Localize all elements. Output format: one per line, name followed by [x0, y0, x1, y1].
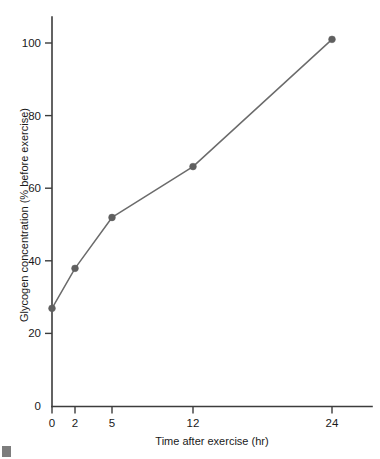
line-chart-svg: 100 80 60 40 20 0 0 2 5 12 24 Glycogen c…: [0, 0, 380, 459]
y-tick-label-100: 100: [22, 37, 41, 49]
x-tick-label-5: 5: [109, 417, 115, 429]
x-tick-label-12: 12: [187, 417, 200, 429]
y-tick-label-20: 20: [28, 327, 41, 339]
x-axis-title: Time after exercise (hr): [155, 435, 268, 447]
data-point-5hr: [109, 214, 116, 221]
chart-figure: 100 80 60 40 20 0 0 2 5 12 24 Glycogen c…: [0, 0, 380, 459]
data-point-12hr: [190, 163, 197, 170]
series-markers-glycogen: [49, 36, 336, 312]
data-series-group: [49, 36, 336, 312]
y-tick-label-0: 0: [35, 400, 41, 412]
series-line-glycogen: [52, 39, 332, 308]
page-corner-mark: [2, 446, 11, 457]
y-tick-label-80: 80: [28, 110, 41, 122]
y-axis-title: Glycogen concentration (% before exercis…: [18, 108, 30, 322]
x-tick-label-2: 2: [72, 417, 78, 429]
y-tick-label-60: 60: [28, 182, 41, 194]
data-point-0hr: [49, 305, 56, 312]
data-point-2hr: [72, 265, 79, 272]
data-point-24hr: [329, 36, 336, 43]
y-tick-label-40: 40: [28, 255, 41, 267]
x-tick-label-24: 24: [326, 417, 339, 429]
x-tick-label-0: 0: [49, 417, 55, 429]
